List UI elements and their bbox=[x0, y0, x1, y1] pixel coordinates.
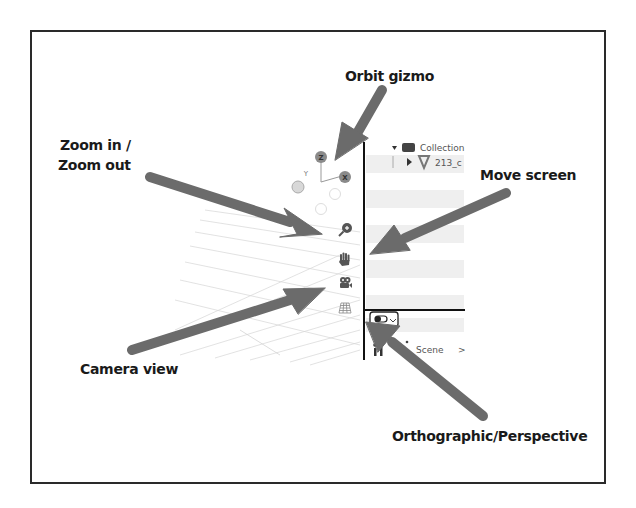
object-label: 213_c bbox=[435, 158, 462, 168]
scene-label[interactable]: Scene bbox=[416, 345, 444, 355]
collection-label: Collection bbox=[420, 143, 465, 153]
callout-zoom-line2: Zoom out bbox=[58, 156, 131, 175]
arrow-orbit-gizmo bbox=[355, 90, 382, 137]
outliner-collection-row[interactable]: Collection bbox=[392, 143, 465, 153]
gizmo-neg-z-ball[interactable] bbox=[316, 204, 327, 215]
gizmo-neg-x-ball[interactable] bbox=[330, 189, 341, 200]
scene-chevron[interactable]: > bbox=[458, 345, 466, 355]
callout-camera-view: Camera view bbox=[80, 360, 178, 379]
pan-hand-icon[interactable] bbox=[339, 253, 350, 267]
gizmo-neg-y-ball[interactable] bbox=[292, 181, 304, 193]
expand-down-icon[interactable] bbox=[392, 146, 397, 150]
gizmo-x-label: X bbox=[342, 174, 348, 182]
viewport-grid bbox=[175, 210, 360, 365]
callout-zoom-line1: Zoom in / bbox=[60, 136, 131, 155]
callout-move-screen: Move screen bbox=[480, 166, 576, 185]
camera-icon[interactable] bbox=[340, 277, 352, 288]
orbit-gizmo[interactable]: Z X Y bbox=[292, 151, 351, 215]
arrow-zoom bbox=[150, 177, 290, 222]
callout-ortho-persp: Orthographic/Perspective bbox=[392, 427, 587, 446]
callout-orbit-gizmo: Orbit gizmo bbox=[345, 67, 434, 86]
gizmo-y-label: Y bbox=[303, 170, 309, 178]
gizmo-z-label: Z bbox=[318, 154, 323, 162]
collection-icon bbox=[402, 143, 415, 152]
